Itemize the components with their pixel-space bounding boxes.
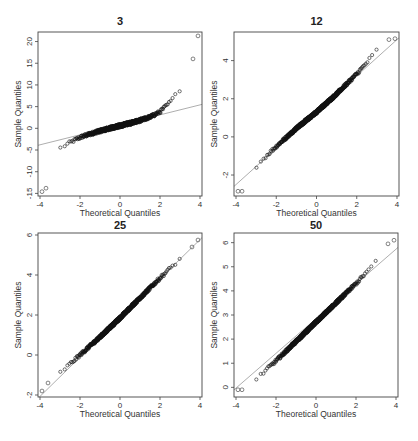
qq-plot-50: 50-4-2024Theoretical Quantiles0123456Sam…: [209, 220, 418, 441]
x-axis-label: Theoretical Quantiles: [276, 208, 356, 218]
y-tick-label: -2: [25, 391, 34, 399]
x-tick-label: -4: [36, 200, 44, 209]
qq-plot-12: 12-4-2024Theoretical Quantiles-2024Sampl…: [209, 0, 418, 220]
x-axis-label: Theoretical Quantiles: [80, 208, 160, 218]
x-tick-label: 4: [198, 200, 203, 209]
y-tick-label: 6: [221, 240, 230, 245]
y-tick-label: -2: [221, 171, 230, 179]
data-points: [236, 238, 396, 391]
data-points: [40, 34, 200, 194]
y-tick-label: 0: [25, 352, 34, 357]
y-tick-label: 3: [221, 312, 230, 317]
chart-title: 25: [114, 220, 126, 231]
y-tick-label: 20: [25, 37, 34, 46]
y-tick-label: -5: [25, 146, 34, 154]
x-axis-label: Theoretical Quantiles: [80, 409, 160, 419]
y-tick-label: 4: [25, 272, 34, 277]
plot-area: 25-4-2024Theoretical Quantiles-20246Samp…: [0, 220, 209, 441]
y-tick-label: 4: [221, 288, 230, 293]
y-tick-label: 0: [221, 134, 230, 139]
y-tick-label: 2: [25, 312, 34, 317]
x-axis-label: Theoretical Quantiles: [276, 409, 356, 419]
y-tick-label: 5: [221, 264, 230, 269]
data-points: [40, 238, 200, 393]
qq-plot-3: 3-4-2024Theoretical Quantiles-15-10-5051…: [0, 0, 209, 220]
chart-title: 12: [310, 15, 322, 27]
y-axis: 0123456: [221, 240, 234, 390]
y-tick-label: 6: [25, 232, 34, 237]
y-tick-label: 10: [25, 80, 34, 89]
x-tick-label: 4: [395, 200, 400, 209]
y-tick-label: 0: [25, 126, 34, 131]
data-points: [236, 37, 397, 193]
x-tick-label: -4: [232, 200, 240, 209]
plot-frame: [38, 32, 202, 196]
y-tick-label: 15: [25, 58, 34, 67]
y-tick-label: 2: [221, 336, 230, 341]
y-tick-label: 0: [221, 385, 230, 390]
x-tick-label: 4: [198, 401, 203, 410]
y-axis-label: Sample Quantiles: [209, 281, 219, 348]
y-tick-label: -10: [25, 165, 34, 177]
x-tick-label: 4: [394, 401, 399, 410]
y-axis-label: Sample Quantiles: [209, 80, 219, 147]
x-tick-label: -4: [232, 401, 240, 410]
x-tick-label: -4: [36, 401, 44, 410]
plot-area: 12-4-2024Theoretical Quantiles-2024Sampl…: [209, 0, 418, 220]
y-axis-label: Sample Quantiles: [13, 80, 23, 147]
chart-title: 3: [117, 15, 123, 27]
qq-plot-25: 25-4-2024Theoretical Quantiles-20246Samp…: [0, 220, 209, 441]
y-axis: -20246: [25, 232, 38, 398]
plot-frame: [234, 233, 398, 397]
plot-area: 3-4-2024Theoretical Quantiles-15-10-5051…: [0, 0, 209, 220]
y-tick-label: -15: [25, 187, 34, 199]
y-tick-label: 2: [221, 96, 230, 101]
y-tick-label: 5: [25, 104, 34, 109]
y-axis: -2024: [221, 58, 234, 179]
y-axis: -15-10-505101520: [25, 37, 38, 200]
y-tick-label: 4: [221, 58, 230, 63]
plot-area: 50-4-2024Theoretical Quantiles0123456Sam…: [209, 220, 418, 441]
chart-title: 50: [310, 220, 322, 231]
y-tick-label: 1: [221, 360, 230, 365]
y-axis-label: Sample Quantiles: [13, 281, 23, 348]
